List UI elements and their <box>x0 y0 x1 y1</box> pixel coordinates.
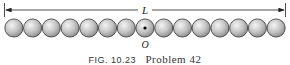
ball <box>117 19 135 37</box>
ball <box>192 19 210 37</box>
origin-dot <box>143 26 146 29</box>
ball-row <box>5 19 285 37</box>
ball <box>248 19 266 37</box>
origin-label: O <box>141 39 148 50</box>
ball <box>98 19 116 37</box>
ball <box>267 19 285 37</box>
ball <box>230 19 248 37</box>
ball <box>80 19 98 37</box>
ball <box>155 19 173 37</box>
caption-figure-number: FIG. 10.23 <box>89 55 137 65</box>
caption-text: Problem 42 <box>145 53 201 65</box>
ball <box>61 19 79 37</box>
ball <box>211 19 229 37</box>
length-label: L <box>141 4 148 16</box>
length-dimension: L <box>5 3 286 17</box>
ball <box>42 19 60 37</box>
ball <box>173 19 191 37</box>
ball <box>5 19 23 37</box>
ball <box>24 19 42 37</box>
figure-caption: FIG. 10.23 Problem 42 <box>0 53 290 65</box>
